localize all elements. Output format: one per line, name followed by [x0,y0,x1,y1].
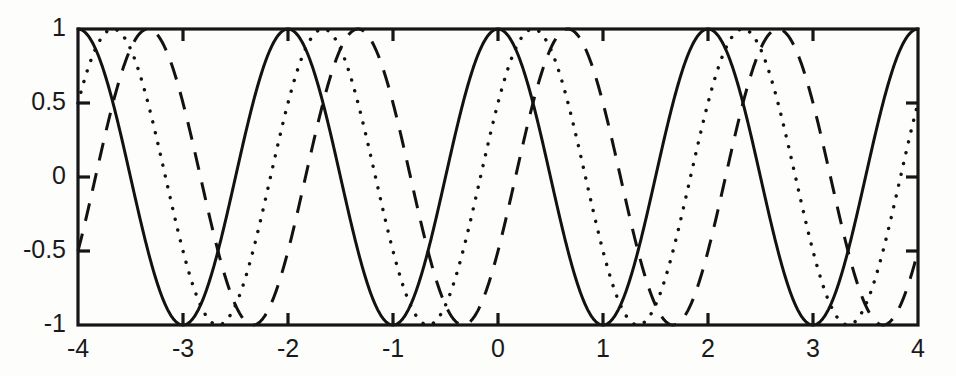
y-tick-label: -0.5 [23,235,66,263]
y-tick-label: 1 [52,13,66,41]
x-tick-label: 0 [491,334,505,362]
x-tick-label: 2 [701,334,715,362]
x-tick-label: 4 [911,334,925,362]
x-tick-label: -4 [67,334,89,362]
y-tick-label: 0 [52,161,66,189]
y-tick-label: -1 [44,309,66,337]
x-tick-label: -3 [172,334,194,362]
x-tick-label: 1 [596,334,610,362]
chart-svg: -4-3-2-101234 -1-0.500.51 [0,0,956,376]
y-tick-label: 0.5 [31,87,66,115]
x-tick-label: 3 [806,334,820,362]
chart-figure: -4-3-2-101234 -1-0.500.51 [0,0,956,376]
x-tick-label: -1 [382,334,404,362]
x-tick-label: -2 [277,334,299,362]
